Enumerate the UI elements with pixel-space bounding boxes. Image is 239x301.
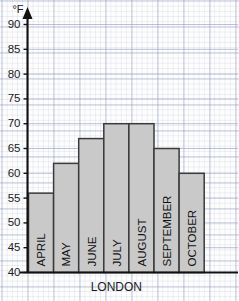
y-tick-label-85: 85 (8, 43, 21, 55)
bar-label-september: SEPTEMBER (161, 196, 173, 267)
bar-label-june: JUNE (86, 236, 98, 266)
bar-chart: APRILMAYJUNEJULYAUGUSTSEPTEMBEROCTOBER40… (0, 0, 239, 301)
y-tick-label-50: 50 (8, 216, 21, 228)
bar-label-august: AUGUST (136, 219, 148, 267)
y-tick-label-65: 65 (8, 142, 21, 154)
y-tick-label-80: 80 (8, 68, 21, 80)
y-axis-arrow-icon (23, 7, 33, 19)
bar-label-october: OCTOBER (186, 210, 198, 267)
bar-label-april: APRIL (35, 233, 47, 267)
y-axis-unit-label: °F (12, 3, 23, 15)
chart-canvas: APRILMAYJUNEJULYAUGUSTSEPTEMBEROCTOBER40… (0, 0, 239, 301)
y-tick-label-90: 90 (8, 18, 21, 30)
x-axis-title: LONDON (91, 280, 142, 294)
y-tick-label-75: 75 (8, 92, 21, 104)
bar-label-may: MAY (60, 242, 72, 266)
y-tick-label-45: 45 (8, 241, 21, 253)
bar-label-july: JULY (111, 239, 123, 267)
y-tick-label-60: 60 (8, 167, 21, 179)
y-tick-label-70: 70 (8, 117, 21, 129)
y-tick-label-40: 40 (8, 266, 21, 278)
y-tick-label-55: 55 (8, 192, 21, 204)
